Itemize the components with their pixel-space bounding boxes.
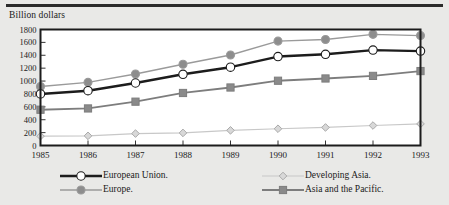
legend-swatch-1 (60, 183, 102, 197)
data-point (322, 75, 329, 82)
legend-marker (77, 172, 85, 180)
data-point (227, 51, 235, 59)
data-point (369, 72, 376, 79)
y-tick-label: 1800 (20, 25, 37, 35)
x-tick-label: 1987 (127, 150, 146, 160)
y-tick-label: 1200 (20, 63, 37, 73)
data-point (369, 30, 377, 38)
data-point (274, 52, 282, 60)
data-point (322, 35, 330, 43)
data-point (369, 46, 377, 54)
data-point (226, 63, 234, 71)
data-point (132, 98, 139, 105)
x-tick-label: 1993 (412, 150, 431, 160)
legend-label-0: European Union. (103, 170, 168, 180)
legend-marker (279, 186, 286, 193)
data-point (227, 84, 234, 91)
legend-swatch-2 (262, 169, 304, 183)
y-tick-label: 400 (24, 115, 37, 125)
legend-label-1: Europe. (103, 184, 133, 194)
data-point (179, 89, 186, 96)
x-tick-label: 1988 (174, 150, 193, 160)
x-tick-label: 1990 (269, 150, 288, 160)
y-tick-label: 600 (24, 102, 37, 112)
legend-marker (279, 172, 287, 180)
y-tick-label: 1000 (20, 76, 37, 86)
x-tick-label: 1986 (79, 150, 98, 160)
data-point (84, 87, 92, 95)
data-point (131, 79, 139, 87)
x-tick-label: 1989 (222, 150, 241, 160)
data-point (179, 70, 187, 78)
data-point (84, 105, 91, 112)
legend-swatch-0 (60, 169, 102, 183)
legend-marker (77, 186, 85, 194)
legend-label-2: Developing Asia. (305, 170, 371, 180)
data-point (84, 78, 92, 86)
y-tick-label: 800 (24, 89, 37, 99)
chart-figure: Billion dollars 020040060080010001200140… (0, 0, 449, 205)
y-tick-label: 1600 (20, 37, 37, 47)
data-point (179, 60, 187, 68)
y-tick-label: 200 (24, 128, 37, 138)
data-point (321, 50, 329, 58)
data-point (274, 37, 282, 45)
data-point (274, 77, 281, 84)
legend-swatch-3 (262, 183, 304, 197)
x-tick-label: 1992 (364, 150, 382, 160)
legend-label-3: Asia and the Pacific. (305, 184, 384, 194)
x-tick-label: 1985 (32, 150, 51, 160)
y-tick-label: 1400 (20, 50, 37, 60)
x-tick-label: 1991 (317, 150, 335, 160)
data-point (132, 70, 140, 78)
